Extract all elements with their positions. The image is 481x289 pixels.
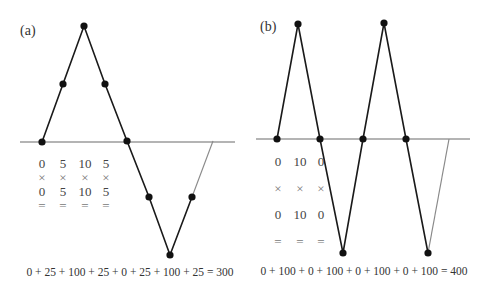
equals-sign: =	[317, 234, 324, 249]
table-value: 10	[79, 156, 92, 171]
table-value: 10	[294, 207, 307, 222]
panel-label: (a)	[20, 23, 36, 39]
table-value: 10	[294, 154, 307, 169]
multiply-sign: ×	[317, 181, 324, 196]
sample-dot	[316, 135, 323, 142]
sample-dot	[273, 135, 280, 142]
equals-sign: =	[274, 234, 281, 249]
table-value: 5	[103, 156, 110, 171]
table-value: 0	[275, 154, 282, 169]
table-value: 0	[318, 154, 325, 169]
sample-dot	[424, 249, 431, 256]
sample-dot	[166, 251, 173, 258]
sample-dot	[123, 137, 130, 144]
closing-segment	[192, 141, 213, 197]
multiply-sign: ×	[296, 181, 303, 196]
figure-canvas: (a)05105××××05105====0 + 25 + 100 + 25 +…	[0, 0, 481, 289]
multiply-sign: ×	[102, 170, 109, 185]
equals-sign: =	[81, 198, 88, 213]
table-value: 5	[103, 184, 110, 199]
table-value: 5	[60, 156, 67, 171]
table-value: 0	[318, 207, 325, 222]
sample-dot	[294, 20, 301, 27]
sample-dot	[101, 80, 108, 87]
sum-equation: 0 + 25 + 100 + 25 + 0 + 25 + 100 + 25 = …	[26, 266, 233, 278]
equals-sign: =	[102, 198, 109, 213]
multiply-sign: ×	[38, 170, 45, 185]
table-value: 5	[60, 184, 67, 199]
sample-dot	[188, 193, 195, 200]
sample-dot	[38, 138, 45, 145]
sample-dot	[402, 135, 409, 142]
closing-segment	[428, 139, 449, 253]
equals-sign: =	[296, 234, 303, 249]
table-value: 0	[275, 207, 282, 222]
table-value: 0	[39, 156, 46, 171]
table-value: 0	[39, 184, 46, 199]
multiply-sign: ×	[274, 181, 281, 196]
panel-b: (b)0100×××0100===0 + 100 + 0 + 100 + 0 +…	[256, 19, 470, 277]
multiply-sign: ×	[59, 170, 66, 185]
panel-a: (a)05105××××05105====0 + 25 + 100 + 25 +…	[20, 22, 235, 278]
sample-dot	[145, 193, 152, 200]
waveform-path	[42, 26, 192, 255]
sample-dot	[59, 80, 66, 87]
panel-label: (b)	[260, 19, 277, 35]
equals-sign: =	[38, 198, 45, 213]
table-value: 10	[79, 184, 92, 199]
equals-sign: =	[59, 198, 66, 213]
sample-dot	[359, 135, 366, 142]
sample-dot	[80, 22, 87, 29]
sample-dot	[339, 249, 346, 256]
multiply-sign: ×	[81, 170, 88, 185]
sum-equation: 0 + 100 + 0 + 100 + 0 + 100 + 0 + 100 = …	[260, 265, 467, 277]
sample-dot	[380, 19, 387, 26]
